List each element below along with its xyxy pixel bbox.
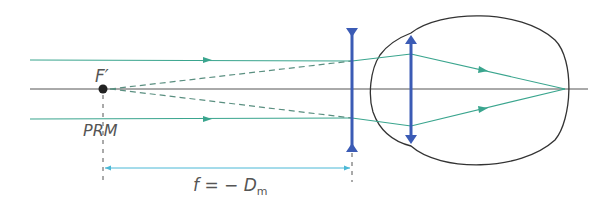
- arrow-icon: [203, 57, 212, 63]
- ray-bottom-converging: [411, 89, 565, 126]
- label-f-prime: F′: [95, 66, 109, 86]
- ray-bottom-diverged: [352, 118, 411, 126]
- dimension-arrow-left: [105, 166, 111, 171]
- eye-lens-top-arrow: [405, 35, 417, 44]
- virtual-ray-bottom: [110, 89, 352, 118]
- formula-subscript: m: [257, 185, 268, 198]
- eye-lens-bottom-arrow: [405, 135, 417, 144]
- lens-top-marker: [346, 28, 358, 37]
- ray-top-converging: [411, 54, 565, 89]
- arrow-icon: [478, 66, 488, 73]
- ray-bottom-incoming: [30, 118, 352, 119]
- ray-top-incoming: [30, 60, 352, 61]
- virtual-ray-top: [110, 61, 352, 89]
- arrow-icon: [478, 106, 488, 113]
- optics-diagram: [0, 0, 601, 205]
- dimension-arrow-right: [344, 166, 350, 171]
- label-formula: f = − Dm: [193, 175, 268, 198]
- ray-top-diverged: [352, 54, 411, 61]
- formula-text: f = − D: [193, 175, 257, 195]
- eye-outline: [370, 16, 569, 165]
- label-prm: PRM: [83, 121, 118, 140]
- arrow-icon: [203, 116, 212, 122]
- lens-bottom-marker: [346, 143, 358, 152]
